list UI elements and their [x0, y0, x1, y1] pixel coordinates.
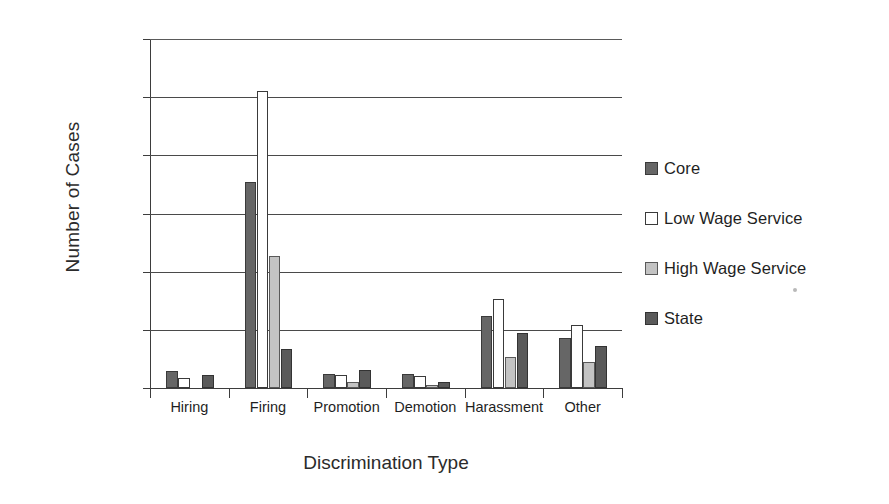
- y-axis-title: Number of Cases: [62, 72, 84, 322]
- ytick-mark-200: [143, 330, 150, 331]
- x-tick-label: Promotion: [314, 399, 380, 415]
- bar-chart: Number of Cases 1200 1000 800 600 400 20…: [0, 0, 889, 504]
- x-axis-title: Discrimination Type: [150, 452, 622, 474]
- ytick-mark-1200: [143, 39, 150, 40]
- bar: [166, 371, 178, 388]
- bar-group: [481, 39, 529, 388]
- bar: [517, 333, 529, 388]
- gridline-1200: [150, 39, 622, 40]
- bar: [571, 325, 583, 388]
- legend-swatch-icon-state: [645, 312, 658, 325]
- bar: [335, 375, 347, 388]
- legend-label-state: State: [664, 309, 703, 328]
- ytick-mark-800: [143, 155, 150, 156]
- bar: [323, 374, 335, 388]
- bar: [202, 375, 214, 388]
- bar: [245, 182, 257, 388]
- gridline-200: [150, 330, 622, 331]
- bar-group: [559, 39, 607, 388]
- plot-area: 1200 1000 800 600 400 200 0 HiringFiring…: [150, 39, 622, 388]
- bar: [281, 349, 293, 388]
- bar: [438, 382, 450, 388]
- bar: [257, 91, 269, 388]
- gridline-400: [150, 272, 622, 273]
- bar: [583, 362, 595, 388]
- legend-item-core: Core: [645, 160, 880, 177]
- bar-group: [166, 39, 214, 388]
- x-tick-mark: [386, 388, 387, 398]
- x-tick-mark: [543, 388, 544, 398]
- scan-artifact-speck: [793, 288, 797, 292]
- bar: [595, 346, 607, 388]
- bar: [402, 374, 414, 388]
- legend-label-core: Core: [664, 159, 700, 178]
- bar: [269, 256, 281, 388]
- x-tick-label: Firing: [250, 399, 286, 415]
- x-tick-mark: [307, 388, 308, 398]
- legend-swatch-icon-high-wage-service: [645, 262, 658, 275]
- ytick-mark-0: [143, 388, 150, 389]
- legend-item-low-wage-service: Low Wage Service: [645, 210, 880, 227]
- bar: [347, 382, 359, 388]
- bar: [178, 378, 190, 388]
- gridline-800: [150, 155, 622, 156]
- x-tick-label: Other: [565, 399, 601, 415]
- bar: [559, 338, 571, 388]
- ytick-mark-1000: [143, 97, 150, 98]
- x-tick-label: Demotion: [394, 399, 456, 415]
- legend-swatch-icon-core: [645, 162, 658, 175]
- bar: [414, 376, 426, 388]
- bar: [493, 299, 505, 388]
- bar: [481, 316, 493, 388]
- bar: [359, 370, 371, 388]
- legend-item-high-wage-service: High Wage Service: [645, 260, 880, 277]
- x-tick-label: Harassment: [465, 399, 543, 415]
- ytick-mark-400: [143, 272, 150, 273]
- x-tick-mark: [622, 388, 623, 398]
- bar-group: [402, 39, 450, 388]
- ytick-mark-600: [143, 214, 150, 215]
- bar-group: [245, 39, 293, 388]
- x-tick-label: Hiring: [170, 399, 208, 415]
- x-tick-mark: [465, 388, 466, 398]
- legend-label-low-wage-service: Low Wage Service: [664, 209, 803, 228]
- legend-label-high-wage-service: High Wage Service: [664, 259, 806, 278]
- legend-item-state: State: [645, 310, 880, 327]
- legend-swatch-icon-low-wage-service: [645, 212, 658, 225]
- gridline-600: [150, 214, 622, 215]
- bar-group: [323, 39, 371, 388]
- bar: [426, 385, 438, 388]
- x-tick-mark: [150, 388, 151, 398]
- bar: [505, 357, 517, 388]
- chart-legend: Core Low Wage Service High Wage Service …: [645, 160, 880, 360]
- x-tick-mark: [229, 388, 230, 398]
- gridline-1000: [150, 97, 622, 98]
